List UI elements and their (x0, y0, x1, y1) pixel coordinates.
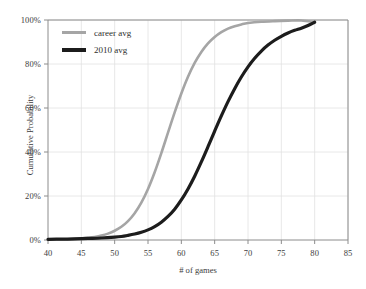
x-tick-label: 40 (44, 248, 53, 258)
chart-figure: 0%20%40%60%80%100% 40455055606570758085 … (0, 0, 366, 289)
x-tick-label: 45 (77, 248, 86, 258)
legend-item-career-avg: career avg (62, 24, 131, 41)
legend-line-icon-career-avg (62, 31, 86, 34)
x-tick-label: 55 (144, 248, 153, 258)
chart-legend: career avg 2010 avg (62, 24, 131, 58)
x-tick-label: 75 (277, 248, 286, 258)
x-tick-label: 65 (210, 248, 219, 258)
legend-item-2010-avg: 2010 avg (62, 41, 131, 58)
plot-canvas (0, 0, 366, 289)
y-axis-title: Cumulative Probability (25, 65, 35, 205)
x-axis-title: # of games (48, 265, 348, 275)
y-tick-label: 0% (0, 235, 41, 245)
x-tick-label: 60 (177, 248, 186, 258)
x-tick-label: 70 (244, 248, 253, 258)
legend-label-2010-avg: 2010 avg (94, 45, 127, 55)
y-tick-label: 100% (0, 15, 41, 25)
legend-label-career-avg: career avg (94, 28, 131, 38)
x-tick-label: 85 (344, 248, 353, 258)
x-tick-label: 80 (310, 248, 319, 258)
x-tick-label: 50 (110, 248, 119, 258)
legend-line-icon-2010-avg (62, 48, 86, 52)
